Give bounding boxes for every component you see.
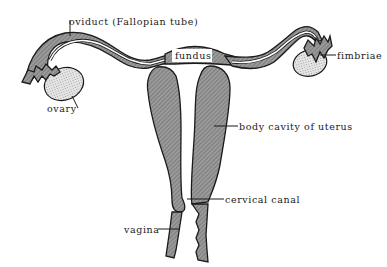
label-fimbriae: fimbriae	[337, 50, 382, 61]
label-cervical-canal: cervical canal	[225, 194, 300, 205]
label-fundus: fundus	[175, 50, 211, 61]
uterus-diagram: oviduct (Fallopian tube) fundus fimbriae…	[0, 0, 387, 267]
label-body-cavity: body cavity of uterus	[239, 121, 353, 132]
right-vaginal-wall	[192, 204, 208, 262]
right-uterine-wall	[191, 66, 230, 204]
label-vagina: vagina	[123, 224, 160, 235]
left-uterine-wall	[147, 67, 184, 212]
left-vaginal-wall	[166, 212, 182, 258]
label-oviduct: oviduct (Fallopian tube)	[69, 16, 198, 27]
label-ovary: ovary	[47, 103, 77, 114]
